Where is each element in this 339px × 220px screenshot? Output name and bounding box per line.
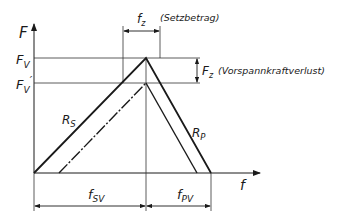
x-axis-label: f <box>240 177 247 193</box>
fpv-label: fPV <box>177 187 194 204</box>
fz-label: fz <box>137 12 146 28</box>
Fz-note: (Vorspannkraftverlust) <box>218 65 325 76</box>
rp-shifted-curve <box>146 83 197 173</box>
fv-label: FV <box>16 52 30 70</box>
y-axis-label: F <box>19 24 28 42</box>
fv-prime-label: FV′ <box>16 74 33 95</box>
fsv-label: fSV <box>88 187 105 204</box>
rs-rp-main-curve <box>34 58 211 173</box>
rs-label: RS <box>62 113 76 129</box>
rp-label: RP <box>192 126 206 142</box>
fz-note: (Setzbetrag) <box>160 12 219 23</box>
force-displacement-diagram: F f FV FV′ RS RP fz (Setzbetrag) Fz (Vor… <box>0 0 339 220</box>
Fz-label: Fz <box>202 64 214 80</box>
